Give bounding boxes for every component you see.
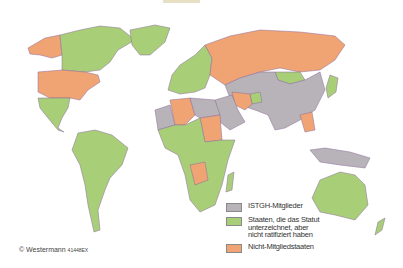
legend-swatch-nonmembers	[226, 244, 242, 253]
region-japan	[326, 75, 338, 98]
region-madagascar	[226, 172, 234, 192]
legend-item-signed: Staaten, die das Statut unterzeichnet, a…	[226, 216, 396, 239]
legend-label-signed: Staaten, die das Statut unterzeichnet, a…	[248, 216, 319, 239]
legend-swatch-signed	[226, 217, 242, 226]
region-mexico	[38, 98, 70, 132]
credit-code: 41448EX	[68, 247, 89, 253]
map-legend: ISTGH-Mitglieder Staaten, die das Statut…	[226, 202, 396, 257]
region-indonesia	[310, 148, 370, 168]
legend-label-members: ISTGH-Mitglieder	[248, 202, 303, 210]
region-indochina	[300, 112, 315, 132]
legend-item-nonmembers: Nicht-Mitgliedstaaten	[226, 243, 396, 253]
region-canada	[60, 26, 135, 72]
credit-text: © Westermann	[19, 246, 66, 253]
legend-label-nonmembers: Nicht-Mitgliedstaaten	[248, 243, 314, 251]
legend-item-members: ISTGH-Mitglieder	[226, 202, 396, 212]
copyright-credit: © Westermann 41448EX	[19, 246, 88, 253]
region-greenland	[130, 25, 170, 55]
legend-swatch-members	[226, 203, 242, 212]
region-usa	[38, 70, 100, 100]
region-alaska	[28, 35, 62, 58]
region-europe	[168, 45, 212, 94]
region-south-america	[72, 130, 128, 232]
